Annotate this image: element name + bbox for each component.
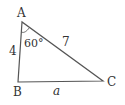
- triangle-abc: [18, 22, 103, 82]
- angle-arc-a: [21, 28, 29, 33]
- vertex-label-c: C: [107, 75, 116, 89]
- side-label-bc: a: [53, 84, 60, 98]
- side-label-ab: 4: [9, 44, 17, 58]
- vertex-label-b: B: [13, 85, 22, 99]
- side-label-ac: 7: [62, 35, 70, 49]
- triangle-diagram: A B C 4 7 a 60°: [0, 0, 125, 105]
- vertex-label-a: A: [16, 6, 26, 20]
- angle-label-a: 60°: [24, 37, 44, 50]
